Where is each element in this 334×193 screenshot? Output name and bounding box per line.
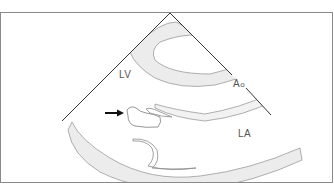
label-lv: LV: [119, 70, 132, 80]
label-ao-sub: o: [240, 80, 245, 89]
label-la: LA: [238, 129, 251, 139]
label-ao: Ao: [233, 79, 245, 89]
diagram-svg: [0, 0, 334, 193]
echo-diagram: LV Ao LA: [0, 0, 334, 193]
